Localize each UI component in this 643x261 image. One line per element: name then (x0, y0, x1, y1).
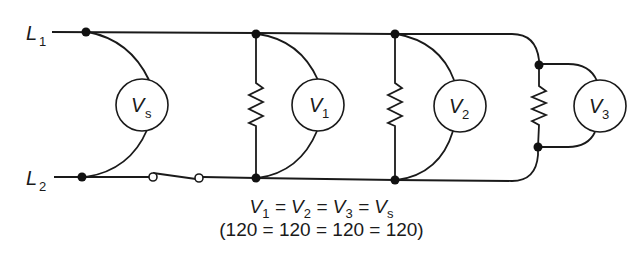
svg-text:s: s (145, 106, 152, 121)
v3-lead-bottom (540, 132, 595, 147)
voltmeter-v1: V 1 (292, 79, 344, 131)
junction-node (252, 174, 261, 183)
vs-lead-top (88, 32, 149, 80)
svg-text:L: L (26, 22, 37, 44)
switch-terminal-right (195, 174, 203, 182)
svg-text:L: L (26, 167, 37, 189)
resistor-1 (249, 34, 263, 178)
voltmeter-v2: V 2 (434, 80, 486, 132)
junction-node (252, 30, 261, 39)
v1-lead-top (258, 34, 318, 80)
voltmeter-v3: V 3 (574, 80, 626, 132)
resistor-3 (532, 65, 546, 147)
v3-lead-top (541, 64, 597, 81)
junction-node (391, 30, 400, 39)
svg-text:V: V (131, 94, 146, 116)
junction-node (535, 61, 544, 70)
label-l2: L 2 (26, 167, 46, 194)
switch-terminal-left (149, 173, 157, 181)
numeric-equation: (120 = 120 = 120 = 120) (0, 219, 643, 241)
v1-lead-bottom (258, 131, 317, 178)
junction-node (82, 28, 91, 37)
svg-text:2: 2 (462, 107, 469, 122)
v2-lead-bottom (397, 131, 453, 180)
vs-lead-bottom (86, 130, 147, 177)
switch-blade (153, 173, 196, 179)
junction-node (391, 176, 400, 185)
resistor-2 (388, 34, 402, 180)
label-l1: L 1 (26, 22, 46, 49)
junction-node (78, 173, 87, 182)
svg-text:1: 1 (322, 106, 329, 121)
svg-text:2: 2 (39, 179, 46, 194)
junction-node (534, 143, 543, 152)
svg-text:3: 3 (602, 107, 609, 122)
v2-lead-top (397, 34, 454, 80)
svg-text:1: 1 (39, 34, 46, 49)
voltmeter-vs: V s (116, 79, 168, 131)
